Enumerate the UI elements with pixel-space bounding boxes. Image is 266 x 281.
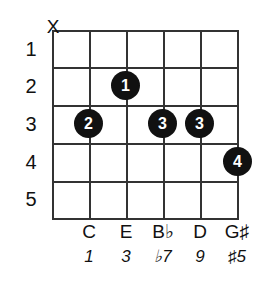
fret-line-nut [52,30,239,32]
finger-dot: 1 [111,71,140,100]
muted-string-marker-icon: X [44,18,62,36]
fret-number-5: 5 [18,189,44,209]
finger-dot: 4 [223,147,252,176]
fret-number-4: 4 [18,152,44,172]
fret-line-2 [52,105,239,107]
fret-number-2: 2 [18,76,44,96]
note-label: G♯ [215,222,259,242]
fret-number-1: 1 [18,39,44,59]
fret-number-3: 3 [18,114,44,134]
fret-line-4 [52,181,239,183]
finger-dot: 3 [185,109,214,138]
finger-dot: 3 [148,109,177,138]
fret-line-3 [52,143,239,145]
string-line-6 [237,30,239,220]
finger-dot: 2 [74,109,103,138]
string-line-1 [52,30,54,220]
string-line-3 [126,30,128,220]
fret-line-1 [52,67,239,69]
fret-line-5 [52,218,239,220]
interval-label: ♯5 [215,248,259,266]
guitar-chord-diagram: X 1 2 3 4 5 1 2 3 3 4 C E B♭ D G♯ 1 3 ♭7… [0,0,266,281]
